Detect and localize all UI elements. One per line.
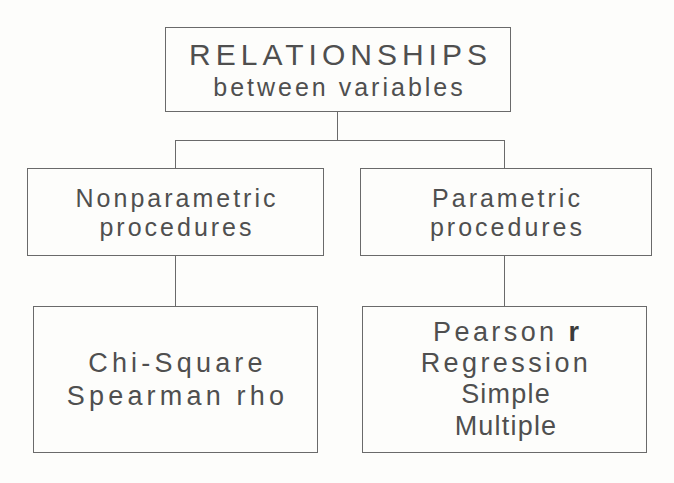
node-nonparametric-procedures: Nonparametric procedures [27, 168, 324, 256]
connector-parametric-to-methods [504, 255, 505, 307]
method-regression-simple: Simple [458, 379, 551, 409]
node-relationships-subtitle: between variables [210, 73, 466, 101]
method-regression-multiple: Multiple [452, 411, 558, 441]
node-relationships: RELATIONSHIPS between variables [165, 27, 511, 112]
node-nonparametric-line2: procedures [96, 213, 254, 241]
connector-split-bar [175, 140, 505, 141]
method-pearson-label: Pearson [433, 317, 568, 347]
connector-split-right-drop [504, 140, 505, 169]
node-parametric-line2: procedures [427, 213, 585, 241]
node-parametric-line1: Parametric [429, 184, 583, 212]
diagram-canvas: RELATIONSHIPS between variables Nonparam… [0, 0, 674, 483]
node-nonparametric-methods: Chi-Square Spearman rho [33, 306, 318, 453]
connector-root-stem [337, 111, 338, 141]
connector-nonparametric-to-methods [175, 255, 176, 307]
method-regression: Regression [418, 348, 592, 378]
node-relationships-title: RELATIONSHIPS [184, 38, 492, 72]
node-nonparametric-line1: Nonparametric [73, 184, 279, 212]
node-parametric-methods: Pearson r Regression Simple Multiple [362, 306, 647, 453]
method-pearson-symbol: r [568, 317, 579, 347]
method-pearson-r: Pearson r [430, 317, 579, 347]
connector-split-left-drop [175, 140, 176, 169]
method-chi-square: Chi-Square [84, 348, 267, 378]
node-parametric-procedures: Parametric procedures [360, 168, 652, 256]
method-spearman-rho: Spearman rho [63, 381, 289, 411]
